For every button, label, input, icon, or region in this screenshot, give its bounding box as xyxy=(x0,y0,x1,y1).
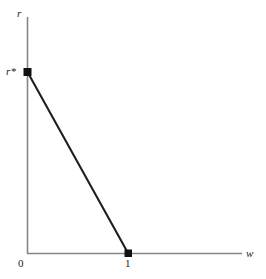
x-tick-label-one: 1 xyxy=(125,258,131,269)
origin-label: 0 xyxy=(18,258,24,269)
demand-line xyxy=(28,72,129,253)
data-point-marker-one xyxy=(125,250,133,258)
x-axis-label: w xyxy=(246,248,253,259)
plot-area xyxy=(0,0,266,279)
figure-container: r w r* 0 1 xyxy=(0,0,266,279)
y-tick-label-rstar: r* xyxy=(6,66,16,77)
y-axis-label: r xyxy=(17,8,21,19)
data-point-marker-rstar xyxy=(24,68,32,76)
